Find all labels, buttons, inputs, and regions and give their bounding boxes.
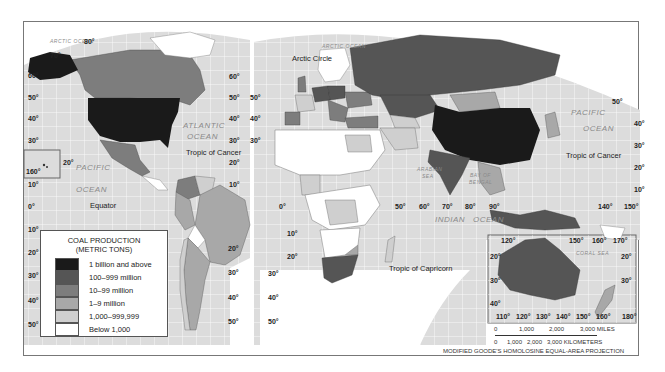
lat-label: 40°	[490, 300, 501, 307]
lon-label: 150°	[569, 237, 583, 244]
label-indian-ocean: OCEAN	[473, 215, 504, 224]
lat-label: 30°	[228, 269, 239, 276]
lat-label: 30°	[28, 272, 39, 279]
scale-mi-1: 1,000	[519, 326, 534, 332]
legend-swatch	[55, 271, 79, 284]
lat-label: 30°	[250, 137, 261, 144]
label-atlantic-2: OCEAN	[187, 132, 218, 141]
lat-label: 30°	[229, 137, 240, 144]
lat-label: 30°	[634, 142, 645, 149]
lat-label: 60°	[229, 73, 240, 80]
region-uk	[298, 76, 306, 92]
lat-label: 30°	[268, 270, 279, 277]
label-arctic-ocean-e: ARCTIC OCEAN	[322, 43, 366, 49]
legend-item: 1–9 million	[55, 297, 125, 310]
region-egypt	[345, 135, 372, 152]
lon-label: 180°	[622, 313, 636, 320]
label-tropic-capricorn: Tropic of Capricorn	[389, 264, 453, 273]
label-arabian-2: SEA	[422, 173, 434, 179]
label-atlantic-1: ATLANTIC	[183, 121, 225, 130]
region-nigeria	[300, 175, 320, 195]
legend-label: 1–9 million	[89, 299, 125, 308]
lat-label: 70°	[50, 52, 61, 59]
legend-label: 1,000–999,999	[89, 312, 139, 321]
lat-label: 10°	[634, 186, 645, 193]
lat-label: 40°	[268, 294, 279, 301]
lon-label: 50°	[395, 203, 406, 210]
legend-label: Below 1,000	[89, 325, 130, 334]
lon-label: 120°	[516, 313, 530, 320]
legend-item: 1 billion and above	[55, 258, 152, 271]
label-arabian-1: ARABIAN	[417, 166, 442, 172]
legend-label: 10–99 million	[89, 286, 133, 295]
label-pacific-w1: PACIFIC	[76, 163, 110, 172]
region-france	[295, 95, 315, 112]
lat-label: 20°	[634, 164, 645, 171]
lat-label: 40°	[28, 115, 39, 122]
region-spain	[285, 112, 300, 125]
lon-label: 80°	[84, 38, 95, 45]
lat-label: 20°	[228, 245, 239, 252]
lon-label: 120°	[501, 237, 515, 244]
scale-mi-2: 2,000	[549, 326, 564, 332]
lat-label: 20°	[229, 159, 240, 166]
legend-title-1: COAL PRODUCTION	[41, 236, 167, 245]
legend-swatch	[55, 297, 79, 310]
region-germany	[312, 86, 330, 102]
lat-label: 30°	[490, 277, 501, 284]
lat-label: 30°	[621, 277, 632, 284]
label-pacific-w2: OCEAN	[76, 185, 107, 194]
lon-label: 160°	[592, 237, 606, 244]
legend-swatch	[55, 323, 79, 336]
legend-swatch	[55, 310, 79, 323]
lat-label: 10°	[287, 230, 298, 237]
lat-label: 50°	[28, 94, 39, 101]
region-ukraine	[345, 92, 372, 108]
label-arctic-circle: Arctic Circle	[292, 54, 332, 63]
scale-km-1: 1,000	[507, 339, 522, 345]
lat-label: 40°	[250, 115, 261, 122]
lat-label: 40°	[634, 120, 645, 127]
lat-label: 50°	[612, 98, 623, 105]
legend-label: 1 billion and above	[89, 260, 152, 269]
lat-label: 0°	[28, 203, 35, 210]
legend-swatch	[55, 258, 79, 271]
label-pacific-e1: PACIFIC	[571, 108, 605, 117]
label-tropic-cancer-e: Tropic of Cancer	[566, 151, 621, 160]
region-poland	[328, 86, 345, 100]
lat-label: 50°	[250, 94, 261, 101]
lat-label: 50°	[228, 318, 239, 325]
lat-label: 10°	[28, 226, 39, 233]
legend: COAL PRODUCTION (METRIC TONS) 1 billion …	[40, 230, 168, 337]
lat-label: 50°	[229, 94, 240, 101]
lon-label: 170°	[613, 237, 627, 244]
legend-swatch	[55, 284, 79, 297]
label-indian: INDIAN	[435, 215, 465, 224]
scale-mi-3: 3,000 MILES	[580, 326, 615, 332]
lon-label: 150°	[624, 203, 638, 210]
label-coral-sea: CORAL SEA	[576, 250, 609, 256]
label-bengal-1: BAY OF	[470, 172, 491, 178]
lon-label: 130°	[536, 313, 550, 320]
lon-label: 110°	[496, 313, 510, 320]
lon-label: 160°	[596, 313, 610, 320]
lat-label: 40°	[229, 115, 240, 122]
scale-km-2: 2,000	[527, 339, 542, 345]
lon-label-0: 0°	[279, 203, 286, 210]
lat-label: 30°	[28, 137, 39, 144]
lat-label: 20°	[63, 159, 74, 166]
lat-label: 40°	[228, 294, 239, 301]
lat-label: 20°	[287, 253, 298, 260]
lat-label: 20°	[621, 253, 632, 260]
legend-item: 1,000–999,999	[55, 310, 139, 323]
lon-label: 60°	[419, 203, 430, 210]
lon-label: 140°	[598, 203, 612, 210]
lon-label: 140°	[556, 313, 570, 320]
lon-label: 80°	[465, 203, 476, 210]
region-south-africa	[322, 255, 358, 283]
lat-label: 10°	[28, 181, 39, 188]
lon-label: 150°	[576, 313, 590, 320]
label-bengal-2: BENGAL	[469, 179, 492, 185]
projection-label: MODIFIED GOODE'S HOMOLOSINE EQUAL-AREA P…	[443, 348, 624, 354]
scale-km-0: 0	[494, 339, 497, 345]
